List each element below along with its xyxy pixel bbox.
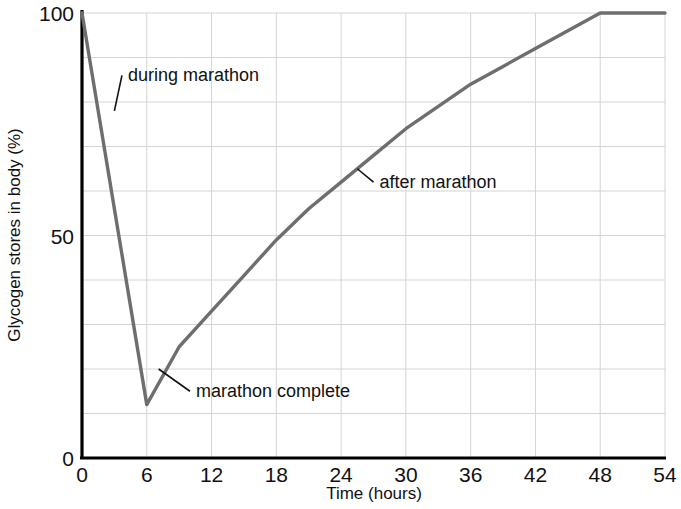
y-axis-title: Glycogen stores in body (%): [5, 128, 24, 342]
y-tick-label: 0: [62, 447, 74, 470]
y-tick-label: 100: [39, 2, 74, 25]
glycogen-line-chart: 061218243036424854 050100 during maratho…: [0, 0, 681, 509]
annotation-label: marathon complete: [196, 381, 350, 401]
x-tick-label: 48: [589, 463, 612, 486]
annotation-label: after marathon: [380, 172, 497, 192]
x-tick-label: 30: [394, 463, 417, 486]
x-axis-title: Time (hours): [326, 484, 422, 503]
x-tick-label: 36: [459, 463, 482, 486]
x-tick-label: 54: [653, 463, 677, 486]
chart-canvas: 061218243036424854 050100 during maratho…: [0, 0, 681, 509]
x-tick-label: 12: [200, 463, 223, 486]
y-tick-label: 50: [51, 225, 74, 248]
x-tick-label: 6: [141, 463, 153, 486]
x-tick-label: 24: [329, 463, 353, 486]
x-tick-label: 18: [265, 463, 288, 486]
x-tick-label: 0: [76, 463, 88, 486]
annotation-label: during marathon: [128, 65, 259, 85]
chart-background: [0, 0, 681, 509]
x-tick-label: 42: [524, 463, 547, 486]
